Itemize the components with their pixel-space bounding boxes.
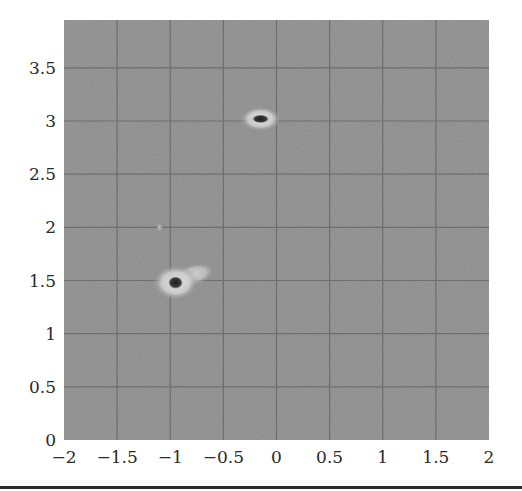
page-divider — [0, 486, 522, 489]
peak-upper — [239, 106, 282, 132]
x-tick-label: −0.5 — [203, 447, 244, 467]
x-axis-tick-labels: −2−1.5−1−0.500.511.52 — [51, 447, 494, 467]
y-tick-label: 2.5 — [29, 164, 56, 184]
x-tick-label: −1.5 — [96, 447, 137, 467]
y-tick-label: 3.5 — [29, 58, 56, 78]
x-tick-label: 1.5 — [422, 447, 449, 467]
y-axis-tick-labels: 00.511.522.533.5 — [29, 58, 56, 450]
y-tick-label: 1.5 — [29, 271, 56, 291]
x-tick-label: 0 — [271, 447, 282, 467]
y-tick-label: 0.5 — [29, 377, 56, 397]
y-tick-label: 2 — [45, 217, 56, 237]
y-tick-label: 0 — [45, 430, 56, 450]
plot-area — [64, 20, 489, 440]
x-tick-label: −2 — [51, 447, 76, 467]
heatmap-figure: −2−1.5−1−0.500.511.52 00.511.522.533.5 — [0, 0, 522, 491]
x-tick-label: −1 — [158, 447, 183, 467]
x-tick-label: 2 — [484, 447, 495, 467]
faint-spot — [155, 221, 164, 234]
x-tick-label: 1 — [377, 447, 388, 467]
x-tick-label: 0.5 — [316, 447, 343, 467]
y-tick-label: 3 — [45, 111, 56, 131]
y-tick-label: 1 — [45, 324, 56, 344]
